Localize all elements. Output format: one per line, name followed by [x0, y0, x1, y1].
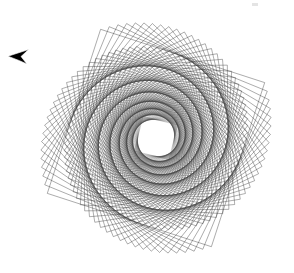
artwork-canvas: [0, 0, 294, 273]
faint-mark-icon: [252, 3, 258, 6]
spiral-graphic: [0, 0, 294, 273]
